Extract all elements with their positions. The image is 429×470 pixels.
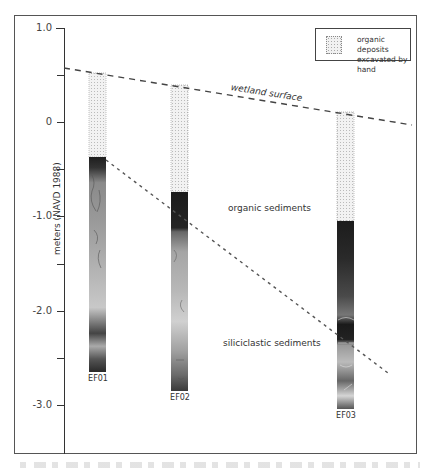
siliciclastic-sediments-label: siliciclastic sediments <box>223 338 321 348</box>
legend-line-2: excavated by hand <box>357 55 410 75</box>
core-label-ef03: EF03 <box>331 411 361 420</box>
core-ef03 <box>337 112 354 409</box>
legend-line-1: organic deposits <box>357 35 410 55</box>
y-tick-1.0: 1.0 <box>22 22 52 33</box>
wetland-surface-line <box>64 68 412 125</box>
core-ef02 <box>171 85 188 391</box>
y-tick-0: 0 <box>22 116 52 127</box>
core-label-ef01: EF01 <box>83 374 113 383</box>
y-axis-label: meters (NAVD 1988) <box>52 165 62 255</box>
y-tick-neg3.0: -3.0 <box>22 399 52 410</box>
stratigraphy-figure: 1.0 0 -1.0 -2.0 -3.0 meters (NAVD 1988) … <box>0 0 429 470</box>
core-label-ef02: EF02 <box>165 393 195 402</box>
organic-sediments-label: organic sediments <box>228 203 311 213</box>
y-tick-neg2.0: -2.0 <box>22 305 52 316</box>
legend-swatch-dotted <box>326 36 342 54</box>
core-ef01 <box>89 73 106 372</box>
legend: organic deposits excavated by hand <box>315 28 411 61</box>
legend-text: organic deposits excavated by hand <box>357 35 410 75</box>
cropped-caption-fragment <box>20 462 420 468</box>
y-tick-neg1.0: -1.0 <box>22 210 52 221</box>
